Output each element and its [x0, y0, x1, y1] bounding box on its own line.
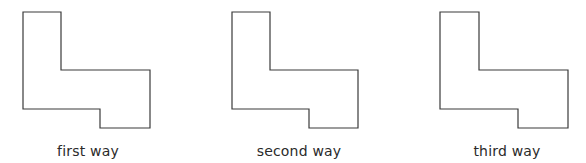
label-third-way: third way [473, 143, 540, 159]
l-shape-third [440, 12, 568, 128]
diagram-canvas [0, 0, 586, 163]
l-shape-first [23, 12, 150, 128]
label-second-way: second way [257, 143, 342, 159]
label-first-way: first way [57, 143, 119, 159]
l-shape-second [232, 12, 358, 128]
